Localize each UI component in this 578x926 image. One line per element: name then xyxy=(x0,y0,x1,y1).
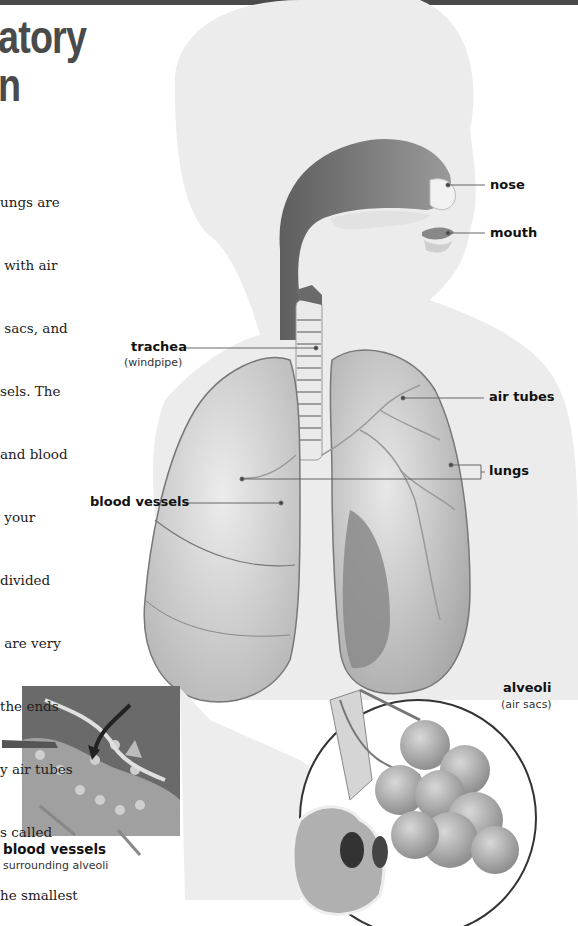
label-trachea: trachea xyxy=(131,339,187,354)
body-line: are very xyxy=(0,633,165,654)
body-line: with air xyxy=(0,255,165,276)
body-line: your xyxy=(0,507,165,528)
body-line: and blood xyxy=(0,444,165,465)
body-line: y air tubes xyxy=(0,759,165,780)
page-title-line-1: atory xyxy=(0,14,86,60)
page-title-line-2: n xyxy=(0,62,20,108)
body-line: divided xyxy=(0,570,165,591)
label-blood-vessels: blood vessels xyxy=(90,494,189,509)
inset-caption-sub: surrounding alveoli xyxy=(3,859,108,872)
label-mouth: mouth xyxy=(490,225,537,240)
label-lungs: lungs xyxy=(489,463,529,478)
label-air-tubes: air tubes xyxy=(489,389,555,404)
body-line: the ends xyxy=(0,696,165,717)
body-line: he smallest xyxy=(0,885,165,906)
label-trachea-sub: (windpipe) xyxy=(124,356,182,369)
body-paragraph: ungs are with air sacs, and sels. The an… xyxy=(0,150,165,926)
alveoli-circle-art xyxy=(293,690,536,926)
body-line: sacs, and xyxy=(0,318,165,339)
inset-caption-title: blood vessels xyxy=(3,841,106,857)
label-alveoli-sub: (air sacs) xyxy=(501,698,552,711)
body-line: ungs are xyxy=(0,192,165,213)
label-alveoli: alveoli xyxy=(503,680,551,695)
body-line: sels. The xyxy=(0,381,165,402)
label-nose: nose xyxy=(490,177,525,192)
body-line: s called xyxy=(0,822,165,843)
